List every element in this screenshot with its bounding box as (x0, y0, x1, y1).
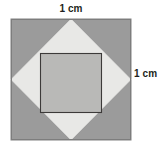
dimension-label-right: 1 cm (134, 68, 157, 80)
dimension-label-top: 1 cm (0, 3, 142, 15)
geometry-figure: 1 cm 1 cm (0, 0, 161, 147)
inner-square (41, 54, 102, 113)
